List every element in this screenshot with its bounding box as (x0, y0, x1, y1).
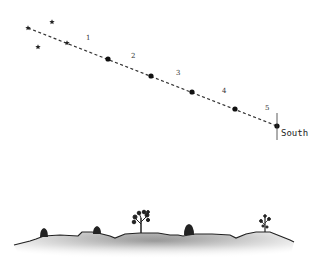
bush-icon (93, 226, 101, 234)
position-label-4: 4 (222, 87, 227, 95)
comet-path-diagram: 12345 South (0, 0, 327, 274)
position-dot-2 (148, 73, 153, 78)
position-label-3: 3 (176, 69, 180, 77)
tree-icon (132, 210, 149, 233)
tree-icon (260, 215, 271, 232)
star-icon (25, 25, 30, 30)
star-icon (35, 44, 40, 49)
position-label-2: 2 (131, 52, 135, 60)
star-icon (49, 19, 54, 24)
south-direction-marker: South (277, 113, 308, 140)
star-field (25, 19, 69, 49)
position-dot-4 (232, 106, 237, 111)
bush-icon (184, 224, 194, 235)
position-points: 12345 (86, 34, 280, 129)
position-dot-3 (189, 89, 194, 94)
south-label: South (281, 128, 308, 138)
position-label-5: 5 (265, 104, 269, 112)
position-dot-1 (105, 56, 110, 61)
horizon-landscape (10, 210, 300, 262)
position-label-1: 1 (86, 34, 90, 42)
bush-icon (40, 228, 48, 237)
